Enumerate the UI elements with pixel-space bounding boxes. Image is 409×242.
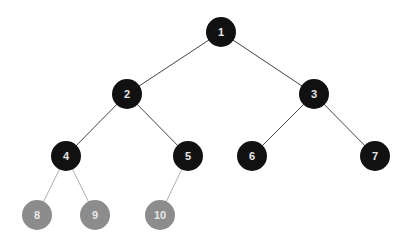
tree-node-10: 10 <box>145 200 175 230</box>
tree-node-6: 6 <box>237 141 267 171</box>
tree-edge-1-3 <box>221 32 314 94</box>
binary-tree-diagram: 12345678910 <box>0 0 409 242</box>
tree-node-7: 7 <box>360 141 390 171</box>
tree-node-1: 1 <box>206 17 236 47</box>
tree-node-8: 8 <box>22 200 52 230</box>
tree-edges <box>37 32 375 215</box>
node-label: 1 <box>218 26 224 38</box>
node-label: 7 <box>372 150 378 162</box>
node-label: 10 <box>154 209 166 221</box>
node-label: 9 <box>92 209 98 221</box>
node-label: 6 <box>249 150 255 162</box>
node-label: 5 <box>185 150 191 162</box>
node-label: 2 <box>124 88 130 100</box>
tree-node-5: 5 <box>173 141 203 171</box>
tree-nodes: 12345678910 <box>22 17 390 230</box>
tree-node-2: 2 <box>112 79 142 109</box>
node-label: 4 <box>63 150 70 162</box>
tree-node-9: 9 <box>80 200 110 230</box>
node-label: 8 <box>34 209 40 221</box>
tree-edge-1-2 <box>127 32 221 94</box>
tree-node-3: 3 <box>299 79 329 109</box>
tree-node-4: 4 <box>51 141 81 171</box>
node-label: 3 <box>311 88 317 100</box>
